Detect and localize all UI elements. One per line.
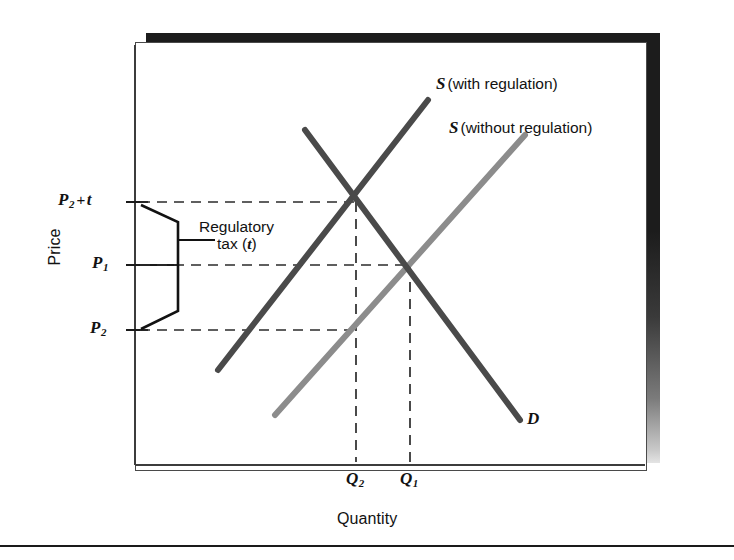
x-tick-subscript-q1: 1 xyxy=(412,477,418,489)
y-tick-plus-sign: + xyxy=(74,191,86,208)
y-tick-label-p1: P1 xyxy=(92,253,108,273)
axis-lines xyxy=(135,45,645,465)
price-axis-ticks xyxy=(126,202,178,330)
figure-page: Price Quantity P2+t P1 P2 Q2 Q1 S(with r… xyxy=(0,0,734,560)
y-tick-tax-variable: t xyxy=(87,190,92,209)
regulatory-tax-annotation: Regulatorytax (t) xyxy=(199,218,274,253)
x-tick-subscript-q2: 2 xyxy=(358,477,364,489)
x-tick-base-q2: Q xyxy=(346,469,358,488)
page-bottom-rule xyxy=(0,545,734,547)
supply-without-regulation-label: S(without regulation) xyxy=(449,118,592,137)
y-tick-label-p2-plus-t: P2+t xyxy=(58,190,91,210)
x-tick-label-q2: Q2 xyxy=(346,469,364,489)
x-tick-label-q1: Q1 xyxy=(400,469,418,489)
y-tick-base-p2: P xyxy=(90,318,100,337)
regulatory-tax-line2-suffix: ) xyxy=(251,235,256,252)
supply-without-regulation-letter: S xyxy=(449,118,460,137)
plot-canvas xyxy=(0,0,734,560)
bracket-outline xyxy=(141,205,178,329)
y-tick-base-p2-plus-t: P xyxy=(58,190,68,209)
supply-with-regulation-label: S(with regulation) xyxy=(436,74,558,93)
x-axis-title: Quantity xyxy=(337,510,397,528)
supply-with-regulation-letter: S xyxy=(436,74,447,93)
supply-without-regulation-qualifier: (without regulation) xyxy=(460,119,592,136)
y-tick-base-p1: P xyxy=(92,253,102,272)
x-tick-base-q1: Q xyxy=(400,469,412,488)
demand-curve-label: D xyxy=(527,409,539,428)
supply-with-regulation-qualifier: (with regulation) xyxy=(447,75,557,92)
y-tick-subscript-p1: 1 xyxy=(102,261,108,273)
y-axis-title: Price xyxy=(46,228,64,265)
regulatory-tax-line2-prefix: tax ( xyxy=(217,235,247,252)
curve-group xyxy=(218,100,525,420)
regulatory-tax-line1: Regulatory xyxy=(199,218,274,235)
y-tick-label-p2: P2 xyxy=(90,318,106,338)
y-tick-subscript-p2: 2 xyxy=(100,326,106,338)
guide-lines xyxy=(140,202,410,462)
regulatory-tax-line2: tax (t) xyxy=(199,235,274,252)
